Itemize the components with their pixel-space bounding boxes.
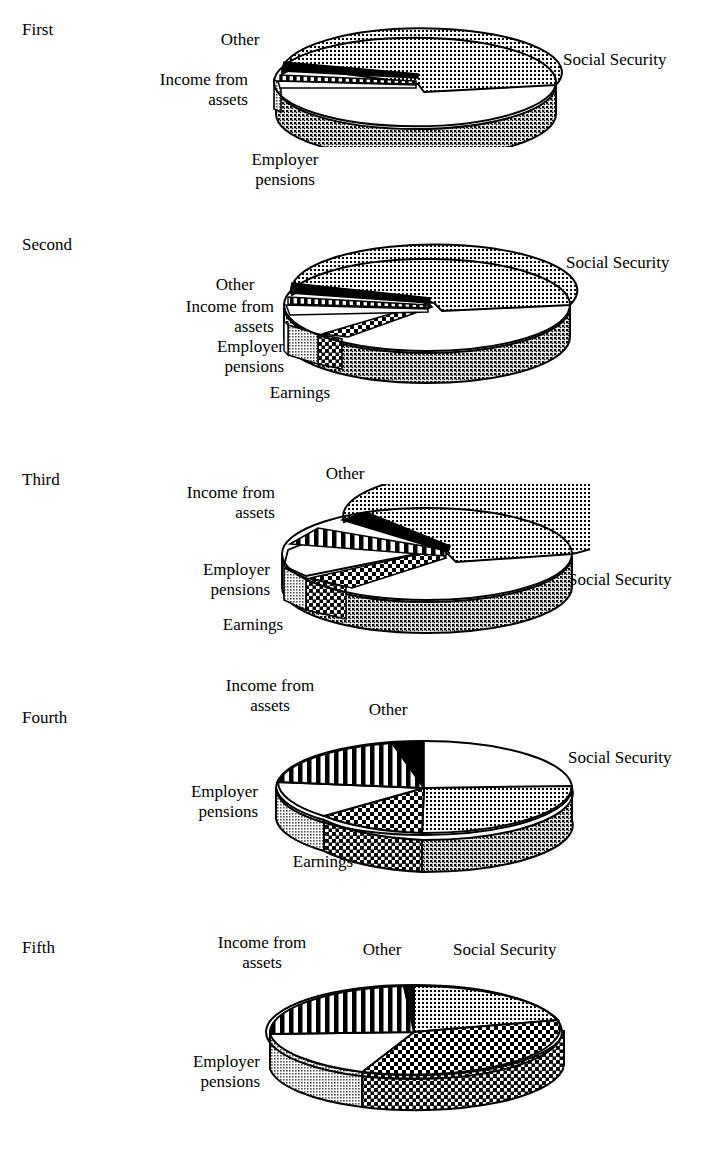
chart-row-fourth: Fourth Income from assets Other Employer… xyxy=(0,660,715,900)
label-other-third: Other xyxy=(305,464,385,484)
row-label-third: Third xyxy=(22,470,60,490)
label-employer-pensions-fifth: Employer pensions xyxy=(120,1052,260,1092)
chart-row-first: First Other Income from assets Employer … xyxy=(0,0,715,215)
pie-chart-fourth xyxy=(262,720,582,890)
pie-chart-first xyxy=(258,22,568,147)
label-income-from-assets-second: Income from assets xyxy=(108,297,274,337)
pie-chart-second xyxy=(262,237,582,397)
label-other-fifth: Other xyxy=(342,940,422,960)
label-social-security-fifth: Social Security xyxy=(453,940,633,960)
row-label-second: Second xyxy=(22,235,72,255)
label-social-security-third: Social Security xyxy=(568,570,715,590)
label-social-security-fourth: Social Security xyxy=(568,748,715,768)
chart-row-third: Third Other Income from assets Employer … xyxy=(0,450,715,660)
pie-chart-third xyxy=(260,484,590,644)
label-other-fourth: Other xyxy=(348,700,428,720)
row-label-fifth: Fifth xyxy=(22,938,55,958)
label-employer-pensions-first: Employer pensions xyxy=(215,150,355,190)
row-label-fourth: Fourth xyxy=(22,708,67,728)
chart-row-second: Second Other Income from assets Employer… xyxy=(0,215,715,450)
label-social-security-second: Social Security xyxy=(566,253,715,273)
row-label-first: First xyxy=(22,20,53,40)
label-income-from-assets-third: Income from assets xyxy=(122,483,275,523)
label-employer-pensions-third: Employer pensions xyxy=(130,560,270,600)
pie-chart-fifth xyxy=(262,962,582,1142)
label-social-security-first: Social Security xyxy=(563,50,713,70)
label-income-from-assets-fourth: Income from assets xyxy=(190,676,350,716)
chart-row-fifth: Fifth Income from assets Other Social Se… xyxy=(0,900,715,1160)
label-employer-pensions-fourth: Employer pensions xyxy=(118,782,258,822)
label-income-from-assets-first: Income from assets xyxy=(110,70,248,110)
pie-chart-figure: First Other Income from assets Employer … xyxy=(0,0,715,1160)
